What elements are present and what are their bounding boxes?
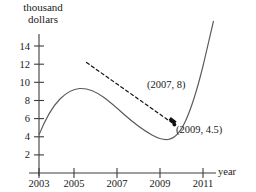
x-tick-label-2011: 2011 xyxy=(181,178,225,189)
y-tick-label-2: 2 xyxy=(8,149,30,160)
y-tick-label-8: 8 xyxy=(8,95,30,106)
y-tick-label-10: 10 xyxy=(8,77,30,88)
tangent-line xyxy=(87,63,175,125)
y-tick-label-14: 14 xyxy=(8,41,30,52)
x-tick-label-2007: 2007 xyxy=(95,178,139,189)
y-tick-label-4: 4 xyxy=(8,131,30,142)
x-axis-title: year xyxy=(218,166,236,177)
annotation-point-2007: (2007, 8) xyxy=(147,79,186,90)
value-curve xyxy=(39,21,214,140)
chart-figure: thousand dollars xyxy=(0,0,256,192)
x-tick-label-2005: 2005 xyxy=(52,178,96,189)
annotation-point-2009: (2009, 4.5) xyxy=(176,124,222,135)
y-tick-label-12: 12 xyxy=(8,59,30,70)
x-tick-label-2009: 2009 xyxy=(138,178,182,189)
plot-area xyxy=(0,0,256,192)
y-tick-label-6: 6 xyxy=(8,113,30,124)
